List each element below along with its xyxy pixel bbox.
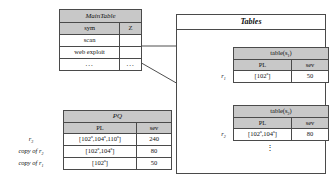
subtable-s2-col-pl: PL (234, 118, 292, 129)
subtable-s1: table(s1) PL sev r1 [102a] 50 (217, 47, 329, 83)
pq-row-label-1-text: copy of r (18, 147, 41, 154)
table-row: web exploit (60, 47, 142, 59)
main-table-cell-z-2: ... (120, 59, 142, 71)
subtable-s1-row-label-sub: 1 (224, 77, 226, 82)
pq-col-pl: PL (64, 123, 137, 134)
subtable-s2-spacer-1 (217, 118, 234, 129)
tables-ellipsis-glyph: ⋮ (265, 146, 275, 149)
pq-cell-pl-1: [102a,104a] (64, 146, 137, 158)
table-row: r2 [102a,104a] 80 (217, 129, 329, 141)
subtable-s2-row-label: r2 (217, 129, 234, 141)
pq-row-label-0: r3 (2, 134, 64, 146)
subtable-s2-cell-sev: 80 (292, 129, 329, 141)
subtable-s1-cell-pl: [102a] (234, 71, 292, 83)
subtable-s1-title-end: ) (290, 49, 292, 56)
subtable-s2-wrapper: table(s2) PL sev r2 [102a,104a] 80 (217, 105, 329, 141)
main-table: MainTable sym Z scan web exploit ... ... (59, 9, 142, 71)
table-row: r3 [102a,104a,110a] 240 (2, 134, 172, 146)
subtable-s1-spacer-0 (217, 48, 234, 60)
pq-table: PQ PL sev r3 [102a,104a,110a] 240 copy o… (2, 110, 172, 170)
main-table-title-row: MainTable (60, 10, 142, 23)
main-table-cell-sym-1: web exploit (60, 47, 120, 59)
subtable-s2-title-end: ) (290, 107, 292, 114)
pq-header-row: PL sev (2, 123, 172, 134)
subtable-s2-row-label-sub: 2 (224, 135, 226, 140)
pq-row-label-2: copy of r1 (2, 158, 64, 170)
subtable-s1-cell-sev: 50 (292, 71, 329, 83)
main-table-cell-z-1 (120, 47, 142, 59)
subtable-s2: table(s2) PL sev r2 [102a,104a] 80 (217, 105, 329, 141)
subtable-s1-row-label: r1 (217, 71, 234, 83)
subtable-s2-title: table(s2) (234, 106, 329, 118)
pq-spacer-1 (2, 123, 64, 134)
tables-ellipsis: ⋮ (265, 146, 275, 149)
table-row: copy of r2 [102a,104a] 80 (2, 146, 172, 158)
main-table-col-sym: sym (60, 23, 120, 35)
pq-table-wrapper: PQ PL sev r3 [102a,104a,110a] 240 copy o… (2, 110, 172, 170)
pq-row-label-2-text: copy of r (18, 159, 41, 166)
subtable-s2-title-text: table(s (270, 107, 287, 114)
pq-row-label-2-sub: 1 (42, 164, 44, 169)
pq-cell-sev-2: 50 (137, 158, 172, 170)
tables-container-title: Tables (177, 15, 325, 30)
pq-cell-sev-1: 80 (137, 146, 172, 158)
pq-cell-sev-0: 240 (137, 134, 172, 146)
diagram-canvas: Tables MainTable sym Z scan web exploit (0, 0, 334, 189)
main-table-header-row: sym Z (60, 23, 142, 35)
main-table-cell-sym-0: scan (60, 35, 120, 47)
pq-row-label-1-sub: 2 (42, 152, 44, 157)
table-row: r1 [102a] 50 (217, 71, 329, 83)
table-row: copy of r1 [102a] 50 (2, 158, 172, 170)
subtable-s2-col-sev: sev (292, 118, 329, 129)
subtable-s1-spacer-1 (217, 60, 234, 71)
main-table-title: MainTable (60, 10, 142, 23)
pq-row-label-1: copy of r2 (2, 146, 64, 158)
main-table-cell-z-0 (120, 35, 142, 47)
main-table-cell-sym-2: ... (60, 59, 120, 71)
main-table-col-z: Z (120, 23, 142, 35)
pq-col-sev: sev (137, 123, 172, 134)
pq-spacer-0 (2, 111, 64, 123)
subtable-s1-title: table(s1) (234, 48, 329, 60)
subtable-s1-col-sev: sev (292, 60, 329, 71)
table-row: ... ... (60, 59, 142, 71)
subtable-s2-cell-pl: [102a,104a] (234, 129, 292, 141)
pq-title-row: PQ (2, 111, 172, 123)
subtable-s2-title-row: table(s2) (217, 106, 329, 118)
subtable-s1-title-text: table(s (270, 49, 287, 56)
pq-cell-pl-0: [102a,104a,110a] (64, 134, 137, 146)
pq-table-title: PQ (64, 111, 172, 123)
table-row: scan (60, 35, 142, 47)
tables-container: Tables (176, 14, 326, 174)
subtable-s1-col-pl: PL (234, 60, 292, 71)
subtable-s1-title-row: table(s1) (217, 48, 329, 60)
subtable-s2-spacer-0 (217, 106, 234, 118)
subtable-s1-wrapper: table(s1) PL sev r1 [102a] 50 (217, 47, 329, 83)
subtable-s2-header-row: PL sev (217, 118, 329, 129)
pq-cell-pl-2: [102a] (64, 158, 137, 170)
subtable-s1-header-row: PL sev (217, 60, 329, 71)
pq-row-label-0-sub: 3 (31, 140, 33, 145)
